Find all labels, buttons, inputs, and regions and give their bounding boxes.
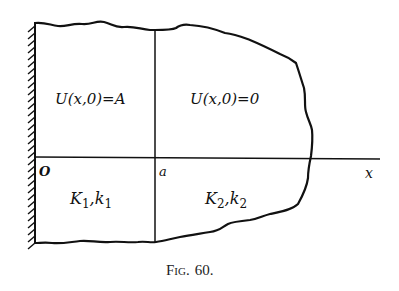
hatch-mark <box>28 103 35 109</box>
hatch-mark <box>28 26 35 32</box>
hatch-mark <box>28 131 35 137</box>
hatch-mark <box>28 110 35 116</box>
hatch-mark <box>28 152 35 158</box>
region1-properties: K1,k1 <box>69 189 112 211</box>
hatch-mark <box>28 117 35 123</box>
hatch-mark <box>28 166 35 172</box>
hatch-mark <box>28 61 35 67</box>
hatch-mark <box>28 68 35 74</box>
axis-label: x <box>365 165 373 181</box>
hatch-mark <box>28 173 35 179</box>
hatch-mark <box>28 54 35 60</box>
hatch-mark <box>28 124 35 130</box>
hatch-mark <box>28 208 35 214</box>
x-axis <box>35 157 380 159</box>
hatch-mark <box>28 159 35 165</box>
hatch-mark <box>28 138 35 144</box>
hatch-mark <box>28 89 35 95</box>
hatch-mark <box>28 40 35 46</box>
hatch-mark <box>28 236 35 242</box>
region1-condition: U(x,0)=A <box>55 90 126 108</box>
hatch-mark <box>28 215 35 221</box>
interface-label: a <box>159 164 167 179</box>
hatch-mark <box>28 187 35 193</box>
figure-caption: Fig.60. <box>166 262 213 278</box>
hatch-mark <box>28 33 35 39</box>
hatch-mark <box>28 194 35 200</box>
hatch-mark <box>28 47 35 53</box>
hatch-mark <box>28 180 35 186</box>
hatch-mark <box>28 201 35 207</box>
region2-condition: U(x,0)=0 <box>190 90 260 108</box>
hatch-mark <box>28 222 35 228</box>
origin-label: O <box>39 164 51 179</box>
hatch-mark <box>28 96 35 102</box>
region-boundary <box>35 22 312 244</box>
diagram-canvas: U(x,0)=A U(x,0)=0 O a x K1,k1 K2,k2 Fig.… <box>0 0 399 291</box>
region2-properties: K2,k2 <box>204 189 247 211</box>
hatch-mark <box>28 243 35 249</box>
hatch-mark <box>28 229 35 235</box>
hatch-mark <box>28 145 35 151</box>
hatch-mark <box>28 75 35 81</box>
insulated-wall-hatching <box>28 22 35 249</box>
hatch-mark <box>28 82 35 88</box>
